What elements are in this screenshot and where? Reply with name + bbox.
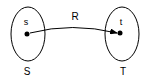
element-s-label: s — [24, 17, 29, 27]
element-t-label: t — [120, 17, 123, 27]
relation-arrow — [30, 28, 117, 34]
relation-diagram: s t R S T — [0, 0, 150, 81]
set-s-label: S — [24, 66, 31, 77]
element-s-dot — [25, 32, 30, 37]
relation-label: R — [71, 11, 78, 22]
element-t-dot — [118, 31, 123, 36]
set-t-label: T — [120, 66, 126, 77]
